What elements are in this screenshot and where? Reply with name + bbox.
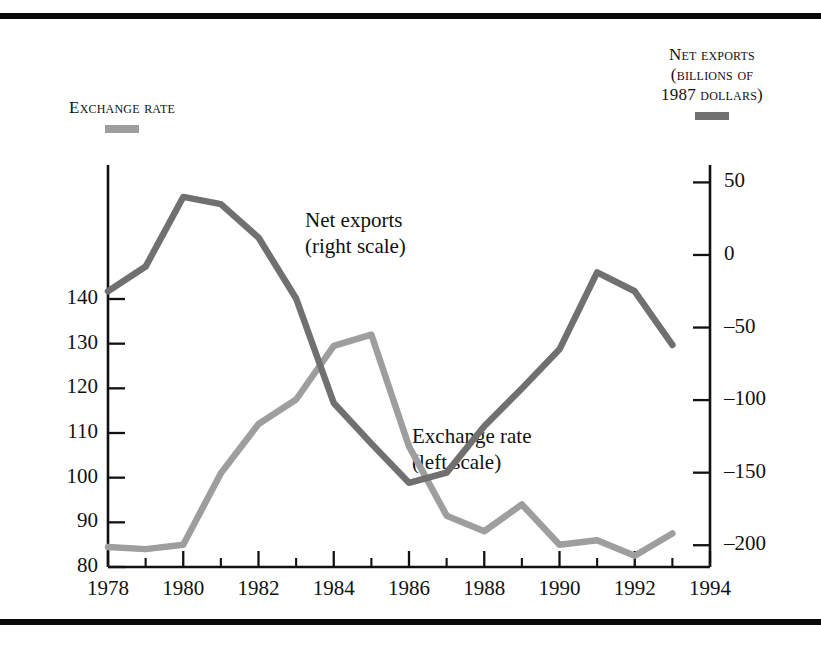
left-axis-tick-label: 90 (46, 508, 98, 533)
right-axis-tick-label: –50 (724, 314, 784, 339)
series-line-exchange-rate (108, 335, 672, 556)
left-axis-tick-label: 120 (46, 374, 98, 399)
series-line-net-exports (108, 197, 672, 483)
x-axis-tick-label: 1982 (224, 576, 294, 601)
chart-canvas (0, 0, 821, 647)
x-axis-tick-label: 1980 (148, 576, 218, 601)
x-axis-tick-label: 1984 (299, 576, 369, 601)
right-axis-tick-label: –200 (724, 531, 784, 556)
x-axis-tick-label: 1992 (600, 576, 670, 601)
x-axis-tick-label: 1988 (449, 576, 519, 601)
left-axis-tick-label: 110 (46, 419, 98, 444)
left-axis-tick-label: 100 (46, 464, 98, 489)
x-axis-tick-label: 1994 (675, 576, 745, 601)
x-axis-tick-label: 1978 (73, 576, 143, 601)
right-axis-tick-label: 0 (724, 241, 784, 266)
right-axis-tick-label: –100 (724, 386, 784, 411)
x-axis-tick-label: 1990 (525, 576, 595, 601)
right-axis-tick-label: –150 (724, 459, 784, 484)
x-axis-tick-label: 1986 (374, 576, 444, 601)
figure-root: Exchange rate Net exports (billions of 1… (0, 0, 821, 647)
right-axis-tick-label: 50 (724, 168, 784, 193)
left-axis-tick-label: 80 (46, 553, 98, 578)
left-axis-tick-label: 140 (46, 285, 98, 310)
left-axis-tick-label: 130 (46, 330, 98, 355)
